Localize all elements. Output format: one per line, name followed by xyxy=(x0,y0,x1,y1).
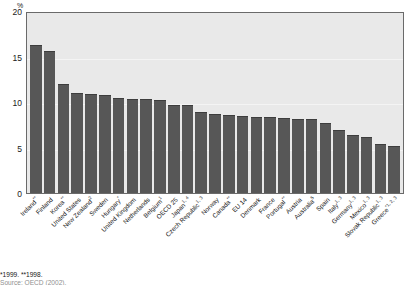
bar xyxy=(58,84,70,193)
bar xyxy=(99,95,111,193)
bar xyxy=(168,105,180,193)
bar xyxy=(375,144,387,194)
bar xyxy=(264,117,276,193)
bar xyxy=(347,135,359,194)
y-axis: 20151050 xyxy=(0,12,26,194)
bar xyxy=(237,116,249,193)
bar xyxy=(30,45,42,194)
bar-chart-figure: % 20151050 Ireland**FinlandKorea**United… xyxy=(0,0,415,290)
bar xyxy=(388,146,400,193)
bar xyxy=(85,94,97,193)
footnotes: *1999. **1998. Source: OECD (2002). xyxy=(0,271,415,285)
bar xyxy=(292,119,304,193)
plot-area xyxy=(26,12,404,194)
footnote-line-1: *1999. **1998. xyxy=(0,271,415,279)
bar xyxy=(140,99,152,194)
bar xyxy=(195,112,207,193)
bar xyxy=(44,51,56,193)
y-axis-tick: 20 xyxy=(13,8,22,17)
bar xyxy=(223,115,235,193)
x-axis-label-cell: Greece*1, 2, 3 xyxy=(388,194,402,274)
bar xyxy=(306,119,318,193)
bar xyxy=(278,118,290,193)
bar xyxy=(320,123,332,193)
y-axis-tick: 10 xyxy=(13,99,22,108)
bar xyxy=(182,105,194,193)
bar xyxy=(209,114,221,193)
x-axis-category-labels: Ireland**FinlandKorea**United StatesNew … xyxy=(26,194,404,274)
y-axis-tick: 0 xyxy=(17,190,22,199)
bar xyxy=(127,99,139,194)
y-axis-tick: 5 xyxy=(17,144,22,153)
bar xyxy=(361,137,373,193)
bar xyxy=(113,98,125,193)
bar xyxy=(333,130,345,193)
bar xyxy=(154,100,166,193)
y-axis-tick: 15 xyxy=(13,53,22,62)
footnote-line-2: Source: OECD (2002). xyxy=(0,279,415,285)
bar-series xyxy=(27,13,403,193)
bar xyxy=(71,93,83,193)
bar xyxy=(251,117,263,194)
